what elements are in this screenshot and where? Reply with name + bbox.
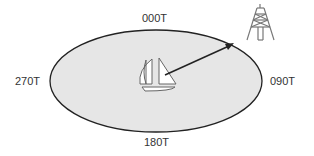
label-west: 270T	[15, 75, 40, 87]
label-east: 090T	[270, 75, 295, 87]
radio-tower-icon	[247, 4, 274, 40]
label-south: 180T	[144, 136, 169, 148]
label-north: 000T	[142, 12, 167, 24]
